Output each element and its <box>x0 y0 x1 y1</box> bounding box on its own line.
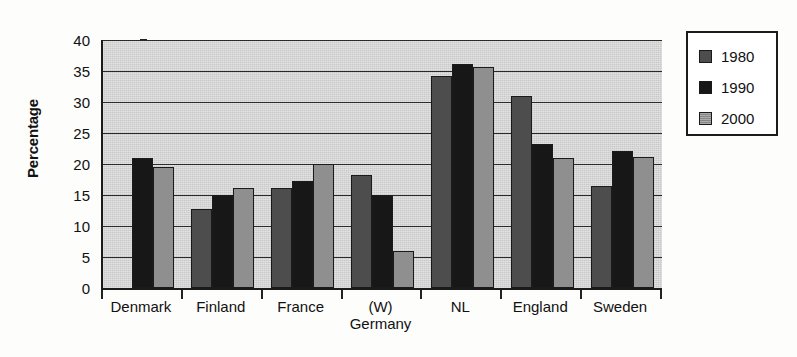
bar-denmark-1990[interactable] <box>132 158 153 288</box>
legend-label: 2000 <box>721 111 754 126</box>
y-axis-tick-label: 35 <box>73 64 90 79</box>
x-axis-category-label: Sweden <box>593 298 647 315</box>
legend-item-2000[interactable]: 2000 <box>699 108 754 128</box>
legend-item-1990[interactable]: 1990 <box>699 77 754 97</box>
bar-england-2000[interactable] <box>553 158 574 288</box>
legend-swatch-1990-icon <box>699 81 712 94</box>
y-axis-tick-labels: 4035302520151050 <box>46 30 90 298</box>
bar-group <box>183 40 263 288</box>
legend-label: 1990 <box>721 80 754 95</box>
y-axis-tick-label: 30 <box>73 95 90 110</box>
legend: 198019902000 <box>686 31 778 136</box>
y-axis-tick-label: 15 <box>73 188 90 203</box>
bar-w-germany-1990[interactable] <box>372 195 393 288</box>
x-axis-category-label: NL <box>451 298 470 315</box>
y-axis-tick-label: 5 <box>82 250 90 265</box>
bar-group <box>343 40 423 288</box>
category-label-line1: Denmark <box>110 298 171 315</box>
bar-w-germany-2000[interactable] <box>393 251 414 288</box>
category-label-line2: Germany <box>350 315 412 332</box>
legend-swatch-2000-icon <box>699 112 712 125</box>
bar-group <box>582 40 662 288</box>
y-axis-tick-label: 25 <box>73 126 90 141</box>
bar-france-1980[interactable] <box>271 188 292 288</box>
bar-group <box>502 40 582 288</box>
category-label-line1: Sweden <box>593 298 647 315</box>
bar-denmark-2000[interactable] <box>153 167 174 288</box>
bar-france-2000[interactable] <box>313 164 334 288</box>
category-label-line1: Finland <box>196 298 245 315</box>
y-axis-tick-label: 10 <box>73 219 90 234</box>
x-axis-category-label: Denmark <box>110 298 171 315</box>
y-axis-tick-label: 0 <box>82 281 90 296</box>
bar-france-1990[interactable] <box>292 181 313 288</box>
bar-england-1980[interactable] <box>511 96 532 288</box>
y-axis-tick-label: 40 <box>73 33 90 48</box>
y-axis-tick-label: 20 <box>73 157 90 172</box>
bar-nl-1990[interactable] <box>452 64 473 288</box>
bar-sweden-1980[interactable] <box>591 186 612 288</box>
bar-finland-2000[interactable] <box>233 188 254 288</box>
x-axis-category-label: England <box>513 298 568 315</box>
bar-group <box>422 40 502 288</box>
category-label-line1: NL <box>451 298 470 315</box>
x-axis-category-label: Finland <box>196 298 245 315</box>
bar-series-container <box>103 40 662 288</box>
bar-group <box>263 40 343 288</box>
category-label-line1: France <box>277 298 324 315</box>
bar-finland-1980[interactable] <box>191 209 212 288</box>
bar-w-germany-1980[interactable] <box>351 175 372 288</box>
x-axis-category-label: (W)Germany <box>350 298 412 332</box>
category-label-line1: England <box>513 298 568 315</box>
x-axis-category-label: France <box>277 298 324 315</box>
category-label-line1: (W) <box>368 298 392 315</box>
y-axis-title: Percentage <box>24 69 41 209</box>
bar-nl-2000[interactable] <box>473 67 494 288</box>
bar-sweden-2000[interactable] <box>633 157 654 288</box>
legend-label: 1980 <box>721 49 754 64</box>
legend-swatch-1980-icon <box>699 50 712 63</box>
bar-chart-figure: Percentage 4035302520151050 DenmarkFinla… <box>0 0 797 357</box>
bar-england-1990[interactable] <box>532 144 553 288</box>
bar-finland-1990[interactable] <box>212 195 233 288</box>
x-axis-category-labels: DenmarkFinlandFrance(W)GermanyNLEnglandS… <box>101 298 662 343</box>
legend-item-1980[interactable]: 1980 <box>699 46 754 66</box>
plot-area <box>101 40 662 290</box>
bar-sweden-1990[interactable] <box>612 151 633 288</box>
bar-nl-1980[interactable] <box>431 76 452 288</box>
bar-group <box>103 40 183 288</box>
